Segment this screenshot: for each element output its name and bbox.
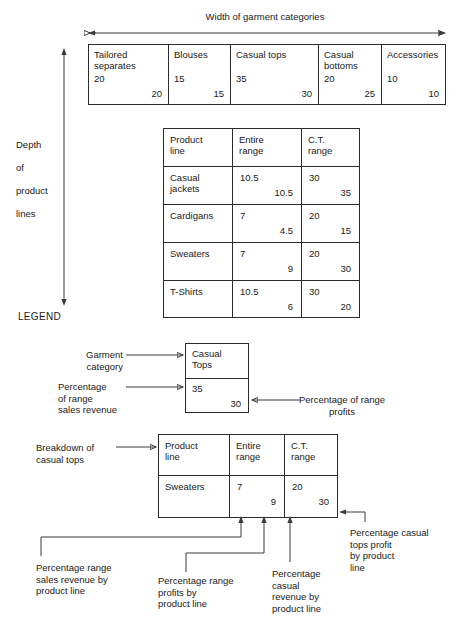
legend-breakdown-table: ProductlineEntirerangeC.T.rangeSweaters7… (158, 434, 338, 518)
garment-category-table: Tailoredseparates2020Blouses1515Casual t… (88, 44, 446, 105)
garment-sales-pct: 20 (324, 73, 335, 84)
breakdown-header-text: Entirerange (236, 440, 261, 463)
entire-range-cell: 74.5 (232, 204, 301, 242)
breakdown-header-text: C.T.range (291, 440, 315, 463)
product-row-name-cell: Sweaters (164, 242, 232, 280)
garment-profit-pct: 20 (151, 88, 162, 99)
legend-category-cell: CasualTops (186, 344, 248, 378)
garment-profit-pct: 25 (364, 88, 375, 99)
breakdown-header-cell: Productline (159, 435, 229, 475)
breakdown-entire-profit: 9 (271, 496, 276, 507)
breakdown-entire-cell: 79 (229, 475, 284, 517)
ct-range-profit: 30 (340, 263, 351, 274)
product-header-cell: Productline (164, 129, 232, 166)
garment-category-name: Tailoredseparates (94, 49, 136, 72)
ct-range-sales: 30 (309, 172, 320, 183)
breakdown-header-cell: Entirerange (229, 435, 284, 475)
callout-casual-revenue-by-line: Percentagecasualrevenue byproduct line (272, 568, 352, 614)
entire-range-cell: 79 (232, 242, 301, 280)
legend-sample-box: CasualTops3530 (185, 343, 249, 413)
ct-range-cell: 3035 (301, 166, 359, 204)
breakdown-header-cell: C.T.range (284, 435, 337, 475)
ct-range-cell: 3020 (301, 280, 359, 317)
breakdown-ct-sales: 20 (292, 481, 303, 492)
product-line-name: Casualjackets (170, 172, 200, 195)
product-line-name: T-Shirts (170, 286, 203, 297)
product-row-name-cell: Casualjackets (164, 166, 232, 204)
garment-sales-pct: 10 (387, 73, 398, 84)
product-row-name-cell: Cardigans (164, 204, 232, 242)
product-header-text: Entirerange (239, 134, 264, 157)
callout-sales-revenue: Percentageof rangesales revenue (58, 381, 138, 416)
garment-profit-pct: 30 (301, 88, 312, 99)
garment-cell: Blouses1515 (168, 45, 230, 104)
product-line-table: ProductlineEntirerangeC.T.rangeCasualjac… (163, 128, 360, 318)
entire-range-sales: 10.5 (240, 286, 259, 297)
ct-range-sales: 20 (309, 248, 320, 259)
width-axis-title: Width of garment categories (85, 11, 445, 23)
ct-range-profit: 20 (340, 301, 351, 312)
garment-sales-pct: 20 (94, 73, 105, 84)
legend-values-cell: 3530 (186, 378, 248, 412)
callout-range-profits-by-line: Percentage rangeprofits byproduct line (158, 575, 278, 610)
garment-cell: Tailoredseparates2020 (89, 45, 168, 104)
breakdown-line-name: Sweaters (165, 481, 205, 492)
garment-category-name: Casual tops (236, 49, 286, 60)
legend-profit-pct: 30 (230, 398, 241, 409)
product-line-name: Cardigans (170, 210, 213, 221)
garment-category-name: Blouses (174, 49, 208, 60)
entire-range-cell: 10.56 (232, 280, 301, 317)
depth-line-2: of (16, 162, 24, 173)
callout-casual-profit-by-line: Percentage casualtops profitby productli… (350, 527, 459, 573)
product-header-text: C.T.range (308, 134, 332, 157)
ct-range-cell: 2030 (301, 242, 359, 280)
product-header-text: Productline (170, 134, 203, 157)
garment-category-name: Accessories (387, 49, 438, 60)
legend-category-name: CasualTops (192, 348, 222, 371)
product-header-cell: C.T.range (301, 129, 359, 166)
entire-range-sales: 7 (240, 248, 245, 259)
garment-cell: Casualbottoms2025 (318, 45, 381, 104)
garment-profit-pct: 10 (428, 88, 439, 99)
ct-range-profit: 15 (340, 225, 351, 236)
depth-line-3: product (16, 185, 48, 196)
callout-range-sales-by-line: Percentage rangesales revenue byproduct … (36, 562, 166, 597)
depth-line-4: lines (16, 208, 36, 219)
entire-range-sales: 10.5 (240, 172, 259, 183)
ct-range-sales: 30 (309, 286, 320, 297)
breakdown-entire-sales: 7 (237, 481, 242, 492)
entire-range-profit: 10.5 (275, 187, 294, 198)
entire-range-profit: 9 (288, 263, 293, 274)
garment-sales-pct: 15 (174, 73, 185, 84)
callout-garment-category: Garmentcategory (60, 349, 123, 372)
depth-axis-label: Depth of product lines (16, 139, 86, 220)
garment-cell: Accessories1010 (381, 45, 445, 104)
product-header-cell: Entirerange (232, 129, 301, 166)
breakdown-ct-cell: 2030 (284, 475, 337, 517)
garment-profit-pct: 15 (213, 88, 224, 99)
ct-range-cell: 2015 (301, 204, 359, 242)
callout-breakdown-casual-tops: Breakdown ofcasual tops (36, 442, 146, 465)
product-row-name-cell: T-Shirts (164, 280, 232, 317)
garment-cell: Casual tops3530 (230, 45, 318, 104)
ct-range-profit: 35 (340, 187, 351, 198)
breakdown-row-name-cell: Sweaters (159, 475, 229, 517)
breakdown-ct-profit: 30 (318, 496, 329, 507)
legend-sales-pct: 35 (192, 383, 203, 394)
entire-range-profit: 4.5 (280, 225, 293, 236)
ct-range-sales: 20 (309, 210, 320, 221)
callout-range-profits: Percentage of rangeprofits (277, 394, 407, 417)
product-line-name: Sweaters (170, 248, 210, 259)
depth-line-1: Depth (16, 139, 41, 150)
legend-title: LEGEND (18, 311, 61, 323)
entire-range-cell: 10.510.5 (232, 166, 301, 204)
entire-range-sales: 7 (240, 210, 245, 221)
garment-sales-pct: 35 (236, 73, 247, 84)
breakdown-header-text: Productline (165, 440, 198, 463)
entire-range-profit: 6 (288, 301, 293, 312)
garment-category-name: Casualbottoms (324, 49, 358, 72)
